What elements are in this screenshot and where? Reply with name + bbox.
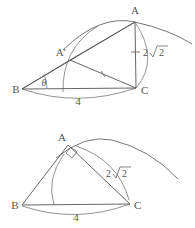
- label-vertex-a-prime: A′: [56, 46, 66, 58]
- label-side-ac-length: 2 2: [143, 46, 168, 58]
- label-side-ac-radicand: 2: [159, 47, 164, 58]
- label-vertex-b: B: [12, 83, 19, 95]
- label-vertex-b: B: [11, 199, 18, 211]
- tick-mark-a-prime-c: [101, 71, 105, 77]
- figure-stack: A A′ B C θ 2 2 4: [0, 0, 195, 228]
- label-side-ac-coefficient: 2: [143, 47, 148, 58]
- label-vertex-a: A: [58, 131, 66, 143]
- figure-right-triangle-at-a: A B C 2 2 4: [0, 114, 195, 228]
- bottom-figure-canvas: A B C 2 2 4: [0, 114, 195, 228]
- label-side-ac-radicand: 2: [122, 168, 127, 179]
- segment-b-c: [22, 204, 130, 205]
- segment-b-a: [22, 145, 68, 205]
- label-vertex-c: C: [134, 199, 141, 211]
- arc-locus-a: [52, 154, 64, 205]
- segment-a-c: [68, 145, 130, 204]
- top-figure-canvas: A A′ B C θ 2 2 4: [0, 0, 195, 114]
- label-angle-theta: θ: [42, 77, 47, 88]
- label-vertex-a: A: [131, 4, 139, 16]
- figure-triangle-with-rotated-vertex: A A′ B C θ 2 2 4: [0, 0, 195, 114]
- segment-b-c: [22, 88, 136, 89]
- segment-a-c: [135, 22, 136, 88]
- label-vertex-c: C: [141, 84, 148, 96]
- arc-radius-ca-upper: [56, 139, 178, 179]
- label-side-bc-length: 4: [75, 95, 81, 107]
- arc-radius-ca-upper: [63, 21, 192, 50]
- label-side-ac-coefficient: 2: [106, 168, 111, 179]
- label-side-bc-length: 4: [73, 211, 79, 223]
